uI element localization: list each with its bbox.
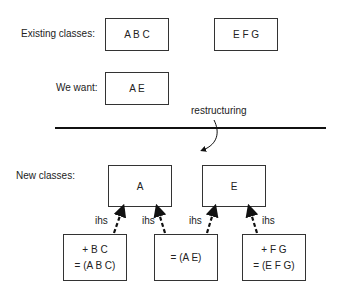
ihs-arrow (114, 210, 122, 233)
restructuring-arrow (203, 120, 217, 150)
ihs-arrow (158, 210, 165, 233)
ihs-arrow (250, 210, 257, 233)
ihs-arrow (207, 210, 214, 233)
diagram-connectors (0, 0, 337, 295)
